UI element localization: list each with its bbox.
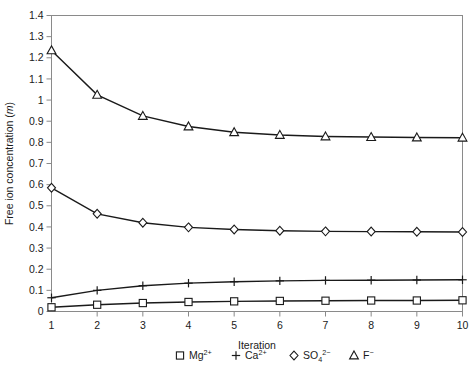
data-point-triangle (138, 111, 147, 119)
x-tick-label: 9 (414, 319, 420, 331)
y-tick-label: 1.2 (29, 51, 44, 63)
data-point-plus (321, 276, 329, 284)
data-point-plus (367, 276, 375, 284)
series-line (52, 280, 463, 298)
y-tick-label: 0.1 (29, 284, 44, 296)
legend-label: Ca2+ (245, 348, 267, 361)
data-point-triangle (47, 46, 56, 54)
data-point-plus (93, 286, 101, 294)
series-line (52, 300, 463, 307)
data-point-plus (230, 277, 238, 285)
y-tick-label: 0.9 (29, 115, 44, 127)
y-tick-label: 0.4 (29, 221, 44, 233)
data-point-plus (184, 279, 192, 287)
y-tick-label: 0 (38, 305, 44, 317)
data-point-square (139, 299, 146, 306)
data-point-diamond (322, 227, 330, 236)
legend-item-Ca2+: Ca2+ (232, 348, 267, 361)
series-SO42- (48, 183, 467, 236)
y-tick-label: 0.2 (29, 263, 44, 275)
x-tick-label: 3 (140, 319, 146, 331)
x-tick-label: 10 (457, 319, 469, 331)
data-point-plus (139, 282, 147, 290)
data-point-diamond (139, 218, 147, 227)
data-point-square (176, 352, 183, 359)
plot-frame (52, 16, 463, 312)
data-point-diamond (413, 227, 421, 236)
legend-item-F-: F− (350, 348, 374, 361)
data-point-plus (47, 294, 55, 302)
x-tick-label: 4 (186, 319, 192, 331)
data-point-square (413, 297, 420, 304)
data-point-triangle (350, 351, 359, 359)
data-point-square (185, 298, 192, 305)
chart-container: 00.10.20.30.40.50.60.70.80.911.11.21.31.… (0, 0, 476, 376)
data-point-plus (276, 277, 284, 285)
x-tick-label: 8 (368, 319, 374, 331)
series-F- (47, 46, 467, 141)
x-tick-label: 5 (231, 319, 237, 331)
legend-label: F− (363, 348, 374, 361)
data-point-plus (413, 276, 421, 284)
data-point-plus (458, 276, 466, 284)
x-tick-label: 2 (94, 319, 100, 331)
data-point-square (276, 297, 283, 304)
data-point-diamond (230, 225, 238, 234)
y-tick-label: 0.5 (29, 199, 44, 211)
data-point-diamond (185, 223, 193, 232)
data-point-square (94, 301, 101, 308)
data-point-diamond (459, 228, 467, 237)
legend-item-SO42-: SO42− (290, 348, 330, 364)
y-axis-title: Free ion concentration (m) (3, 102, 15, 225)
y-tick-label: 1 (38, 94, 44, 106)
legend-label: Mg2+ (189, 348, 212, 361)
data-point-diamond (93, 209, 101, 218)
data-point-diamond (367, 227, 375, 236)
series-Ca2+ (47, 276, 466, 302)
data-point-plus (232, 351, 240, 359)
data-point-diamond (276, 226, 284, 235)
y-tick-label: 0.3 (29, 242, 44, 254)
x-tick-label: 7 (323, 319, 329, 331)
legend-item-Mg2+: Mg2+ (176, 348, 211, 361)
x-tick-label: 1 (49, 319, 55, 331)
data-point-square (48, 304, 55, 311)
y-tick-label: 1.1 (29, 73, 44, 85)
y-tick-label: 1.3 (29, 30, 44, 42)
y-tick-label: 0.6 (29, 178, 44, 190)
series-Mg2+ (48, 297, 466, 311)
data-point-diamond (290, 351, 298, 360)
data-point-square (459, 297, 466, 304)
line-chart: 00.10.20.30.40.50.60.70.80.911.11.21.31.… (0, 0, 476, 376)
legend-label: SO42− (303, 348, 330, 364)
y-tick-label: 1.4 (29, 9, 44, 21)
x-tick-label: 6 (277, 319, 283, 331)
data-point-square (322, 297, 329, 304)
y-tick-label: 0.7 (29, 157, 44, 169)
data-point-square (231, 298, 238, 305)
data-point-square (368, 297, 375, 304)
series-line (52, 50, 463, 137)
y-tick-label: 0.8 (29, 136, 44, 148)
series-line (52, 188, 463, 232)
